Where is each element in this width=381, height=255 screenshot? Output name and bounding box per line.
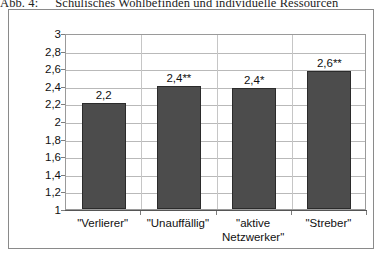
x-axis-tick-mark (366, 211, 367, 215)
y-axis-tick-mark (61, 104, 65, 105)
y-axis-tick-label: 1,4 (17, 169, 61, 181)
category-separator-gridline (141, 35, 142, 209)
x-axis-tick-mark (140, 211, 141, 215)
bar (82, 103, 126, 209)
y-axis-tick-mark (61, 69, 65, 70)
x-axis-tick-mark (291, 211, 292, 215)
x-axis-tick-label-line: "aktive (222, 217, 284, 231)
x-axis-tick-label: "Verlierer" (77, 217, 128, 231)
y-axis-tick-label: 1,6 (17, 151, 61, 163)
y-axis-tick-label: 1,2 (17, 186, 61, 198)
y-axis-tick-label: 2,8 (17, 46, 61, 58)
x-axis-tick-label-line: Netzwerker" (222, 231, 284, 245)
bar-value-label: 2,4** (166, 72, 191, 84)
x-axis-tick-label: "aktiveNetzwerker" (222, 217, 284, 244)
y-axis-tick-mark (61, 175, 65, 176)
category-separator-gridline (292, 35, 293, 209)
bar-value-label: 2,4* (244, 74, 264, 86)
y-axis-tick-mark (61, 34, 65, 35)
bar (307, 71, 351, 209)
y-axis-tick-labels: 32,82,62,42,221,81,61,41,21 (15, 34, 61, 210)
y-axis-tick-label: 2 (17, 116, 61, 128)
gridline-horizontal (66, 53, 365, 54)
y-axis-tick-mark (61, 210, 65, 211)
x-axis-tick-label-line: "Verlierer" (77, 217, 128, 231)
bar (232, 88, 276, 209)
x-axis-tick-label-line: "Streber" (305, 217, 351, 231)
bar-value-label: 2,6** (317, 57, 342, 69)
y-axis-tick-mark (61, 87, 65, 88)
figure-frame: 32,82,62,42,221,81,61,41,21 2,22,4**2,4*… (8, 9, 374, 249)
x-axis-tick-label: "Streber" (305, 217, 351, 231)
y-axis-tick-label: 1 (17, 204, 61, 216)
x-axis-tick-mark (216, 211, 217, 215)
x-axis-tick-label-line: "Unauffällig" (147, 217, 209, 231)
y-axis-tick-label: 2,4 (17, 81, 61, 93)
y-axis-tick-mark (61, 192, 65, 193)
y-axis-tick-label: 1,8 (17, 134, 61, 146)
bar (157, 86, 201, 209)
plot-area: 2,22,4**2,4*2,6** (65, 34, 366, 210)
y-axis-tick-mark (61, 140, 65, 141)
y-axis-tick-label: 2,2 (17, 98, 61, 110)
y-axis-tick-mark (61, 122, 65, 123)
category-separator-gridline (217, 35, 218, 209)
y-axis-tick-mark (61, 52, 65, 53)
bar-value-label: 2,2 (96, 89, 112, 101)
y-axis-tick-mark (61, 157, 65, 158)
x-axis-tick-label: "Unauffällig" (147, 217, 209, 231)
y-axis-tick-label: 3 (17, 28, 61, 40)
y-axis-tick-label: 2,6 (17, 63, 61, 75)
